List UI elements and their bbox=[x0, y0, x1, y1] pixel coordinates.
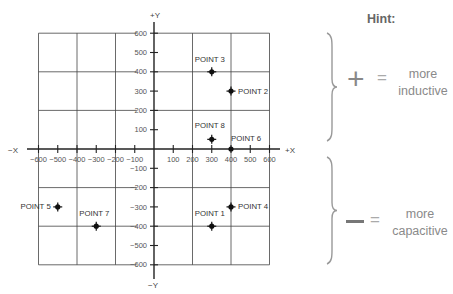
y-tick-label: −100 bbox=[130, 164, 147, 173]
negative-text-line1: more bbox=[386, 206, 453, 223]
data-point: POINT 7 bbox=[79, 209, 109, 231]
negative-text-line2: capacitive bbox=[386, 223, 453, 240]
y-tick-label: −400 bbox=[130, 222, 147, 231]
x-tick-label: 400 bbox=[225, 155, 238, 164]
x-tick-label: −300 bbox=[88, 155, 105, 164]
equals-sign-2: = bbox=[370, 210, 380, 230]
data-point: POINT 2 bbox=[227, 87, 269, 96]
y-tick-label: −600 bbox=[130, 260, 147, 269]
positive-text-line1: more bbox=[393, 66, 453, 83]
x-tick-label: −600 bbox=[30, 155, 47, 164]
y-tick-label: 300 bbox=[134, 87, 147, 96]
hint-braces bbox=[327, 33, 337, 264]
point-label: POINT 3 bbox=[195, 55, 225, 64]
y-tick-label: 200 bbox=[134, 106, 147, 115]
y-axis-pos-label: +Y bbox=[150, 11, 161, 20]
point-label: POINT 5 bbox=[21, 202, 52, 211]
y-tick-label: 400 bbox=[134, 67, 147, 76]
point-label: POINT 8 bbox=[195, 121, 225, 130]
y-tick-label: −300 bbox=[130, 203, 147, 212]
data-point: POINT 4 bbox=[227, 202, 269, 211]
negative-meaning: more capacitive bbox=[386, 206, 453, 240]
y-axis-neg-label: −Y bbox=[148, 281, 159, 290]
x-tick-label: 600 bbox=[263, 155, 276, 164]
x-tick-label: 300 bbox=[205, 155, 218, 164]
x-tick-label: −400 bbox=[69, 155, 86, 164]
brace-positive-icon bbox=[327, 33, 337, 141]
data-point: POINT 1 bbox=[195, 209, 225, 231]
minus-icon bbox=[346, 220, 364, 223]
y-tick-label: 100 bbox=[134, 125, 147, 134]
positive-text-line2: inductive bbox=[393, 83, 453, 100]
point-label: POINT 6 bbox=[231, 134, 261, 143]
data-point: POINT 8 bbox=[195, 121, 225, 144]
x-tick-label: −500 bbox=[49, 155, 66, 164]
positive-meaning: more inductive bbox=[393, 66, 453, 100]
x-tick-label: 500 bbox=[244, 155, 257, 164]
point-marker-icon bbox=[228, 146, 233, 151]
x-tick-label: 100 bbox=[167, 155, 180, 164]
y-tick-label: −500 bbox=[130, 241, 147, 250]
brace-negative-icon bbox=[327, 157, 337, 264]
data-point: POINT 5 bbox=[21, 202, 63, 211]
x-tick-label: −200 bbox=[107, 155, 124, 164]
x-tick-label: 200 bbox=[186, 155, 199, 164]
point-label: POINT 7 bbox=[79, 209, 109, 218]
plus-icon: + bbox=[347, 62, 365, 96]
y-tick-label: 500 bbox=[134, 48, 147, 57]
x-tick-label: −100 bbox=[126, 155, 143, 164]
point-label: POINT 2 bbox=[238, 87, 268, 96]
data-point: POINT 3 bbox=[195, 55, 225, 77]
point-label: POINT 1 bbox=[195, 209, 225, 218]
point-label: POINT 4 bbox=[238, 202, 269, 211]
y-tick-label: −200 bbox=[130, 183, 147, 192]
equals-sign: = bbox=[377, 68, 387, 88]
coordinate-plot: +X−X+Y−Y −600−500−400−300−200−1001002003… bbox=[0, 0, 453, 294]
x-axis-pos-label: +X bbox=[285, 146, 296, 155]
y-tick-label: 600 bbox=[134, 29, 147, 38]
x-axis-neg-label: −X bbox=[8, 146, 19, 155]
hint-title: Hint: bbox=[367, 12, 395, 26]
